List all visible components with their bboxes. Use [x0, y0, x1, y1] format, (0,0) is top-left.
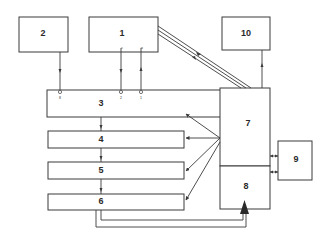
block-8-label: 8 [243, 181, 248, 191]
port-1-icon [139, 90, 142, 93]
arrow-7-to-9 [270, 155, 278, 158]
block-9: 9 [278, 141, 312, 180]
arrow-6-to-8-a [101, 210, 243, 220]
port-8-icon [58, 90, 61, 93]
arrow-8-to-9 [270, 171, 278, 174]
port-2-icon [119, 90, 122, 93]
block-7: 7 [220, 88, 270, 166]
block-6-label: 6 [98, 196, 103, 206]
arrow-7-to-6 [186, 142, 220, 200]
port-1-label: 1 [140, 96, 142, 100]
block-5-label: 5 [98, 165, 103, 175]
block-4-label: 4 [98, 134, 103, 144]
block-4: 4 [48, 131, 184, 148]
arrow-6-to-8-b [96, 210, 246, 227]
block-6: 6 [48, 194, 184, 210]
block-3: 3 8 2 1 [47, 90, 222, 117]
block-10-label: 10 [241, 28, 251, 38]
block-7-label: 7 [245, 118, 250, 128]
block-1: 1 c o [89, 17, 158, 52]
arrow-7-to-5 [186, 138, 220, 171]
block-1-label: 1 [119, 28, 124, 38]
block-9-label: 9 [293, 154, 298, 164]
port-2-label: 2 [120, 96, 122, 100]
block-10: 10 [222, 17, 270, 50]
block-5: 5 [48, 162, 184, 179]
block-2: 2 [19, 17, 68, 52]
block-2-label: 2 [40, 28, 45, 38]
block-3-label: 3 [98, 98, 103, 108]
block-diagram: 2 1 c o 10 3 8 2 1 4 5 6 7 [0, 0, 333, 238]
arrow-7-to-3 [186, 114, 220, 138]
port-8-label: 8 [59, 96, 61, 100]
